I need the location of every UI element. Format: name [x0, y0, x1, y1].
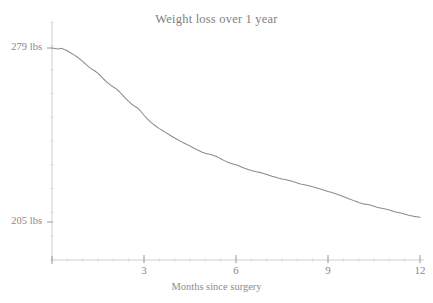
- x-axis-title: Months since surgery: [0, 281, 433, 292]
- chart-title: Weight loss over 1 year: [0, 12, 433, 27]
- x-axis-tick-label-3: 3: [132, 264, 156, 276]
- x-axis-tick-label-12: 12: [408, 264, 432, 276]
- chart-canvas: [0, 0, 433, 303]
- weight-line-series: [52, 48, 420, 217]
- x-axis-tick-label-6: 6: [224, 264, 248, 276]
- y-axis-tick-label-top: 279 lbs: [0, 41, 42, 52]
- weight-loss-chart: Weight loss over 1 year 279 lbs 205 lbs …: [0, 0, 433, 303]
- x-axis: [52, 255, 424, 264]
- x-axis-tick-label-9: 9: [316, 264, 340, 276]
- y-axis: [47, 22, 54, 260]
- y-axis-tick-label-bottom: 205 lbs: [0, 215, 42, 226]
